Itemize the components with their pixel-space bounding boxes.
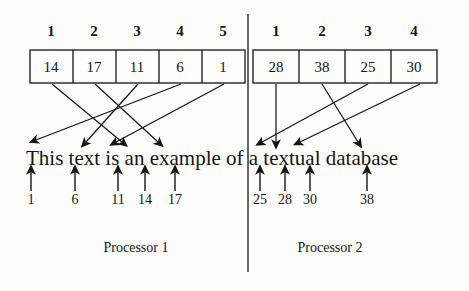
p2-cell-value-1: 28 xyxy=(269,60,284,75)
processor-2-position-arrows xyxy=(260,172,367,191)
processor-1-position-arrows xyxy=(31,172,175,191)
text-database-distribution-figure: 1 2 3 4 5 1 2 3 4 14 17 11 6 1 28 38 25 … xyxy=(0,0,469,291)
p1-column-header-3: 3 xyxy=(133,24,141,39)
p2-position-label-38: 38 xyxy=(360,193,374,207)
p1-position-label-14: 14 xyxy=(138,193,152,207)
p2-cell-value-4: 30 xyxy=(407,60,422,75)
p1-column-header-2: 2 xyxy=(90,24,98,39)
p1-cell-value-3: 11 xyxy=(130,60,144,75)
p1-column-header-1: 1 xyxy=(47,24,55,39)
p2-column-header-1: 1 xyxy=(272,24,280,39)
p1-cell-value-4: 6 xyxy=(176,60,184,75)
processor-2-mapping-arrows xyxy=(262,84,420,142)
p2-cell-value-2: 38 xyxy=(315,60,330,75)
p2-position-label-30: 30 xyxy=(303,193,317,207)
p1-cell-value-1: 14 xyxy=(44,60,59,75)
p1-position-label-11: 11 xyxy=(111,193,124,207)
mapping-arrow-p1-c5 xyxy=(116,84,224,142)
p2-position-label-25: 25 xyxy=(253,193,267,207)
p2-cell-value-3: 25 xyxy=(361,60,376,75)
processor-1-caption: Processor 1 xyxy=(104,241,169,255)
p2-column-header-3: 3 xyxy=(364,24,372,39)
p2-position-label-28: 28 xyxy=(278,193,292,207)
p2-column-header-2: 2 xyxy=(318,24,326,39)
p1-position-label-6: 6 xyxy=(72,193,79,207)
p1-cell-value-5: 1 xyxy=(219,60,227,75)
p1-position-label-1: 1 xyxy=(28,193,35,207)
p1-column-header-4: 4 xyxy=(176,24,184,39)
text-database-sentence: This text is an example of a textual dat… xyxy=(26,148,398,169)
processor-1-mapping-arrows xyxy=(36,84,224,142)
p2-column-header-4: 4 xyxy=(410,24,418,39)
p1-cell-value-2: 17 xyxy=(87,60,102,75)
p1-column-header-5: 5 xyxy=(219,24,227,39)
processor-2-caption: Processor 2 xyxy=(298,241,363,255)
p1-position-label-17: 17 xyxy=(168,193,182,207)
mapping-arrow-p2-c4 xyxy=(300,84,420,142)
